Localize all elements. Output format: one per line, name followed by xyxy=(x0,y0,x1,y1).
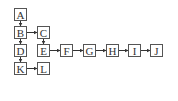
node-label: C xyxy=(40,27,47,39)
node-K: K xyxy=(14,62,27,75)
node-label: H xyxy=(109,45,117,57)
node-F: F xyxy=(60,44,73,57)
node-label: E xyxy=(40,45,47,57)
node-label: L xyxy=(40,63,47,75)
node-H: H xyxy=(106,44,119,57)
node-label: B xyxy=(17,27,24,39)
node-label: K xyxy=(17,63,25,75)
node-label: J xyxy=(154,45,158,57)
node-label: G xyxy=(86,45,94,57)
node-label: F xyxy=(63,45,69,57)
node-J: J xyxy=(150,44,163,57)
node-C: C xyxy=(37,26,50,39)
node-E: E xyxy=(37,44,50,57)
node-G: G xyxy=(83,44,96,57)
node-D: D xyxy=(14,44,27,57)
node-label: I xyxy=(133,45,137,57)
node-label: D xyxy=(17,45,25,57)
node-L: L xyxy=(37,62,50,75)
node-A: A xyxy=(14,8,27,21)
node-label: A xyxy=(17,9,25,21)
node-B: B xyxy=(14,26,27,39)
node-I: I xyxy=(128,44,141,57)
